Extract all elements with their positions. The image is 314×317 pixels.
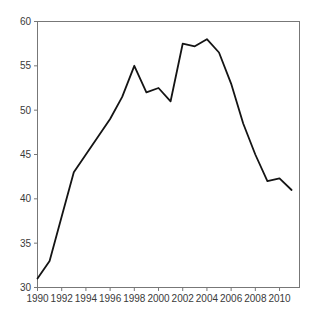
x-tick-label: 1992	[51, 293, 74, 304]
y-tick-label: 30	[20, 282, 32, 293]
plot-border	[38, 22, 300, 288]
x-tick-label: 2000	[147, 293, 170, 304]
chart-canvas: 30354045505560 1990199219941996199820002…	[0, 0, 314, 317]
x-axis: 1990199219941996199820002002200420062008…	[26, 288, 291, 304]
y-tick-label: 45	[20, 149, 32, 160]
x-tick-label: 1994	[75, 293, 98, 304]
y-tick-label: 60	[20, 16, 32, 27]
x-tick-label: 2010	[268, 293, 291, 304]
x-tick-label: 2002	[172, 293, 195, 304]
line-chart: 30354045505560 1990199219941996199820002…	[0, 0, 314, 317]
y-axis: 30354045505560	[20, 16, 38, 293]
x-tick-label: 2006	[220, 293, 243, 304]
x-tick-label: 2004	[196, 293, 219, 304]
y-tick-label: 40	[20, 193, 32, 204]
plot-area	[38, 22, 300, 288]
x-tick-label: 1998	[123, 293, 146, 304]
y-tick-label: 55	[20, 60, 32, 71]
x-tick-label: 1996	[99, 293, 122, 304]
y-tick-label: 50	[20, 105, 32, 116]
y-tick-label: 35	[20, 238, 32, 249]
x-tick-label: 2008	[244, 293, 267, 304]
x-tick-label: 1990	[26, 293, 49, 304]
